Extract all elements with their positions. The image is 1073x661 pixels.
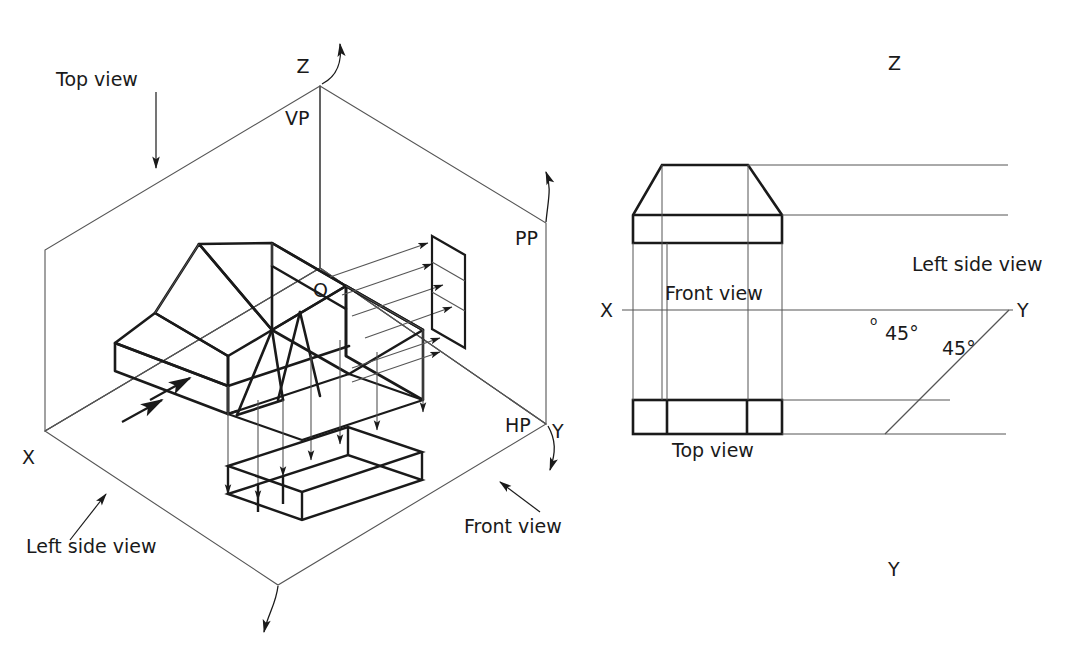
solid-left-chamfer-face xyxy=(155,244,272,356)
projectors-to-hp xyxy=(228,330,423,500)
view-direction-arrows xyxy=(122,378,190,422)
axis-ox-line xyxy=(45,268,320,431)
reference-planes xyxy=(45,86,546,585)
solid-edge-long-front-2 xyxy=(228,411,237,414)
iso-label-front-view: Front view xyxy=(464,515,562,537)
hp-top-view-trace xyxy=(228,427,422,520)
ortho-top-view-outline xyxy=(633,400,782,434)
ortho-label-y-bottom: Y xyxy=(887,558,900,580)
ortho-label-x: X xyxy=(600,299,613,321)
rotation-arrow-pp xyxy=(546,172,549,222)
ortho-label-angle-upper: 45° xyxy=(885,322,919,344)
iso-label-y: Y xyxy=(551,420,564,442)
drawing-canvas: Z VP PP HP Y X O Top view Left side view… xyxy=(0,0,1073,661)
solid-right-upper-block xyxy=(272,243,346,309)
iso-label-hp: HP xyxy=(505,414,531,436)
iso-label-pp: PP xyxy=(515,227,538,249)
projector-pp-3 xyxy=(352,285,443,316)
leader-left-side-view xyxy=(70,494,106,540)
leader-front-view xyxy=(500,482,540,512)
isometric-diagram: Z VP PP HP Y X O Top view Left side view… xyxy=(22,44,564,632)
solid-right-body xyxy=(346,286,423,400)
rotation-arrow-z xyxy=(322,44,340,84)
ortho-label-front-view: Front view xyxy=(665,282,763,304)
iso-label-top-view: Top view xyxy=(55,68,138,90)
rotation-arrow-hp xyxy=(264,586,278,632)
ortho-label-y-right: Y xyxy=(1016,299,1029,321)
technical-drawing-svg: Z VP PP HP Y X O Top view Left side view… xyxy=(0,0,1073,661)
iso-label-vp: VP xyxy=(285,107,309,129)
view-leaders xyxy=(70,92,540,540)
projector-pp-1 xyxy=(330,243,428,277)
ortho-front-view-outline xyxy=(633,165,782,243)
orthographic-diagram: Z Y X Y o 45° 45° Front view Top view Le… xyxy=(600,52,1043,580)
ortho-label-z: Z xyxy=(888,52,901,74)
iso-label-x: X xyxy=(22,446,35,468)
solid-lower-left-block xyxy=(115,343,228,414)
iso-label-left-side-view: Left side view xyxy=(26,535,157,557)
ortho-label-origin: o xyxy=(870,314,877,328)
projector-pp-5 xyxy=(352,338,440,368)
ortho-label-left-side-view: Left side view xyxy=(912,253,1043,275)
ortho-label-angle-lower: 45° xyxy=(942,337,976,359)
solid-notch-edge-d xyxy=(300,312,320,396)
ortho-label-top-view: Top view xyxy=(671,439,754,461)
iso-label-origin: O xyxy=(313,279,328,301)
pp-side-view-trace xyxy=(432,236,465,348)
solid-vertical-d xyxy=(237,400,283,415)
iso-label-z: Z xyxy=(296,55,309,77)
